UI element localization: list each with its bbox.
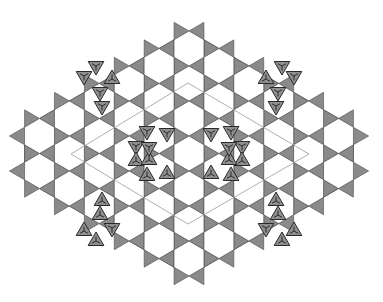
kagome-diagram: [0, 0, 383, 302]
kagome-triangle: [353, 162, 368, 180]
kagome-triangle: [9, 127, 24, 145]
tiling-svg: [0, 0, 383, 302]
hexagon-layer: [25, 31, 354, 276]
kagome-triangle: [353, 127, 368, 145]
kagome-triangle: [9, 162, 24, 180]
